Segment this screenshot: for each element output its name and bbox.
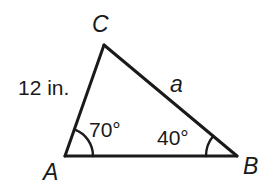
side-length-label-ac: 12 in. — [18, 77, 69, 98]
angle-arc-b — [206, 136, 213, 156]
vertex-label-b: B — [243, 155, 258, 178]
angle-measure-label-b: 40° — [157, 127, 189, 148]
vertex-label-c: C — [92, 13, 109, 36]
side-length-label-cb: a — [170, 73, 183, 96]
triangle-figure: C A B 12 in. a 70° 40° — [0, 0, 273, 195]
vertex-label-a: A — [43, 161, 58, 184]
angle-measure-label-a: 70° — [89, 119, 121, 140]
